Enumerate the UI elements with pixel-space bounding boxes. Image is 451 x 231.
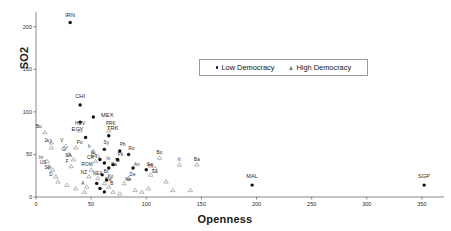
point-label: CHI (66, 93, 94, 99)
point-label: Sw (136, 162, 164, 167)
x-tick-label: 100 (134, 201, 158, 207)
legend-label-low-democracy: Low Democracy (221, 63, 274, 72)
point-label: Bu (25, 124, 53, 129)
point-label: MAL (238, 173, 266, 179)
plot-canvas (0, 0, 451, 231)
point-label: D (37, 172, 65, 177)
point-label: HUV (66, 121, 94, 126)
y-tick-label: 0 (10, 194, 32, 200)
dot-marker-icon (216, 66, 219, 69)
point-label: IRN (56, 12, 84, 18)
point-label: ROM (73, 162, 101, 167)
x-tick-label: 50 (79, 201, 103, 207)
x-tick-label: 300 (355, 201, 379, 207)
point-label: TRK (99, 125, 127, 131)
legend-entry-low-democracy: Low Democracy (216, 63, 275, 72)
x-tick-label: 150 (189, 201, 213, 207)
point-label: Sa (141, 169, 169, 174)
y-tick-label: 150 (10, 66, 32, 72)
point-label: Bo (146, 150, 174, 155)
point-label: Ir (75, 144, 103, 149)
legend-entry-high-democracy: High Democracy (289, 63, 351, 72)
scatter-chart-figure: SO2 Openness 050100150200250300350 05010… (0, 0, 451, 231)
triangle-marker-icon (289, 66, 293, 70)
x-axis-title: Openness (160, 213, 290, 225)
x-tick-label: 250 (300, 201, 324, 207)
point-label: CR (77, 155, 105, 160)
point-label: Ba (183, 157, 211, 162)
y-axis-title: SO2 (18, 28, 30, 88)
point-label: A (69, 181, 97, 186)
y-tick-label: 100 (10, 109, 32, 115)
point-label: Ne (114, 177, 142, 182)
x-tick-label: 0 (24, 201, 48, 207)
point-label: SGP (410, 173, 438, 179)
point-label: Sp (34, 165, 62, 170)
x-tick-label: 350 (410, 201, 434, 207)
x-tick-label: 200 (245, 201, 269, 207)
point-label: PRK (97, 121, 125, 126)
legend-label-high-democracy: High Democracy (296, 63, 351, 72)
point-label: NEA (84, 171, 112, 176)
point-label: EGY (64, 126, 92, 132)
y-tick-label: 200 (10, 24, 32, 30)
point-label: MEX (93, 112, 121, 118)
chart-legend: Low Democracy High Democracy (199, 59, 368, 76)
